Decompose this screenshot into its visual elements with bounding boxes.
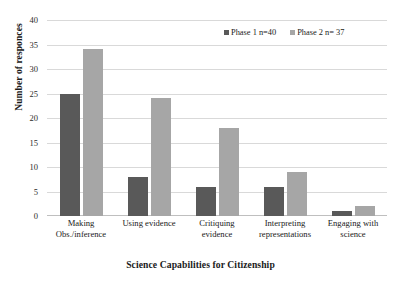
legend-swatch-icon	[290, 30, 295, 35]
bar-phase2	[355, 206, 375, 216]
category-label-line: Critiquing	[184, 218, 250, 229]
y-tick-label: 30	[30, 64, 39, 74]
category-label-line: science	[320, 229, 386, 240]
bar-phase2	[287, 172, 307, 216]
y-tick-label: 25	[30, 89, 39, 99]
category-label-line: Engaging with	[320, 218, 386, 229]
y-axis-tick-labels: 0 5 10 15 20 25 30 35 40	[0, 20, 43, 216]
category-label-line: Using evidence	[116, 218, 182, 229]
bar-phase1	[128, 177, 148, 216]
x-axis-category-labels: Making Obs./inference Using evidence Cri…	[47, 218, 387, 239]
legend-label: Phase 1 n=40	[231, 28, 276, 37]
y-tick-label: 10	[30, 162, 39, 172]
bar-phase2	[83, 49, 103, 216]
plot-area	[47, 20, 387, 216]
y-tick-label: 20	[30, 113, 39, 123]
bar-phase2	[219, 128, 239, 216]
y-tick-label: 35	[30, 40, 39, 50]
legend-label: Phase 2 n= 37	[297, 28, 344, 37]
bar-chart: Number of responces 0 5 10 15 20 25 30 3…	[0, 0, 401, 283]
category-label: Using evidence	[115, 218, 183, 239]
bar-phase1	[196, 187, 216, 216]
bars-layer	[47, 20, 387, 216]
category-label: Making Obs./inference	[47, 218, 115, 239]
category-label: Engaging with science	[319, 218, 387, 239]
category-label-line: representations	[252, 229, 318, 240]
category-label-line: Obs./inference	[48, 229, 114, 240]
chart-legend: Phase 1 n=40 Phase 2 n= 37	[224, 28, 345, 37]
y-tick-label: 0	[34, 211, 38, 221]
bar-group	[183, 20, 251, 216]
category-label: Interpreting representations	[251, 218, 319, 239]
category-label-line: Making	[48, 218, 114, 229]
bar-phase1	[264, 187, 284, 216]
x-axis-title: Science Capabilities for Citizenship	[0, 259, 401, 270]
y-tick-label: 40	[30, 15, 39, 25]
category-label-line: Interpreting	[252, 218, 318, 229]
category-label-line: evidence	[184, 229, 250, 240]
legend-item-phase1: Phase 1 n=40	[224, 28, 276, 37]
bar-phase1	[60, 94, 80, 217]
bar-group	[47, 20, 115, 216]
y-tick-label: 5	[34, 187, 38, 197]
legend-item-phase2: Phase 2 n= 37	[290, 28, 344, 37]
bar-group	[251, 20, 319, 216]
legend-swatch-icon	[224, 30, 229, 35]
bar-phase1	[332, 211, 352, 216]
bar-phase2	[151, 98, 171, 216]
bar-group	[319, 20, 387, 216]
y-tick-label: 15	[30, 138, 39, 148]
bar-group	[115, 20, 183, 216]
category-label: Critiquing evidence	[183, 218, 251, 239]
